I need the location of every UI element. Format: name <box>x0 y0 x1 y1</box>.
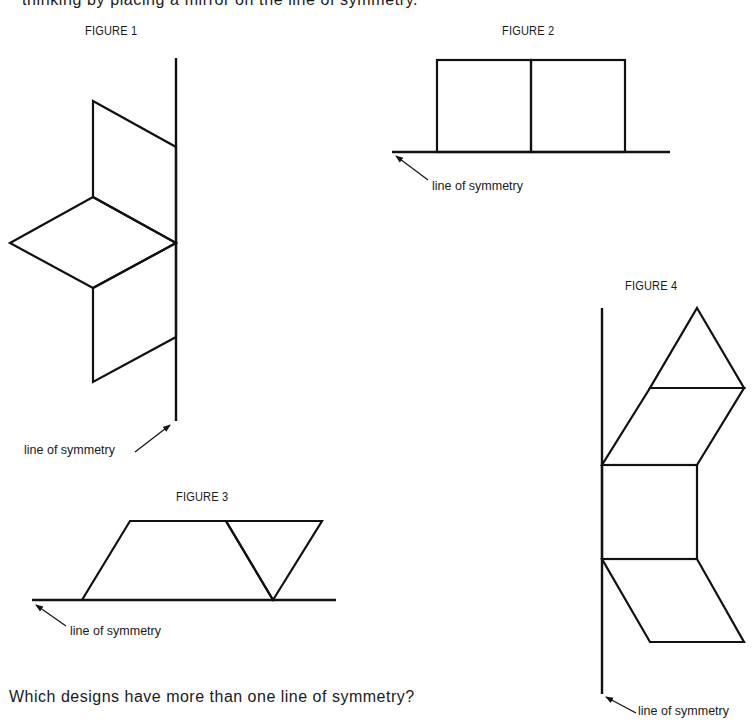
figure-1-upper-parallelogram <box>93 101 176 243</box>
figure-2-right-square <box>531 60 625 152</box>
figure-2-arrow <box>396 156 428 180</box>
figure-4-symmetry-label: line of symmetry <box>638 704 729 718</box>
figure-3-triangle <box>226 521 322 600</box>
figure-4 <box>602 308 744 713</box>
figure-1 <box>10 58 176 452</box>
figure-4-upper-parallelogram <box>602 388 744 465</box>
figure-1-lower-parallelogram <box>93 243 176 382</box>
figure-2 <box>392 60 670 180</box>
figure-4-lower-parallelogram <box>602 559 744 642</box>
figure-1-symmetry-label: line of symmetry <box>24 443 115 457</box>
figure-2-left-square <box>437 60 531 152</box>
figure-3 <box>32 521 336 626</box>
figure-2-symmetry-label: line of symmetry <box>432 179 523 193</box>
figure-3-symmetry-label: line of symmetry <box>70 624 161 638</box>
figure-4-arrow <box>606 697 636 713</box>
figure-4-triangle <box>650 308 744 388</box>
figure-3-arrow <box>36 605 66 626</box>
figure-1-rhombus <box>10 197 176 288</box>
question-text: Which designs have more than one line of… <box>9 688 415 706</box>
figure-1-arrow <box>135 425 170 452</box>
figure-4-square <box>602 465 697 559</box>
figure-3-trapezoid <box>82 521 273 600</box>
symmetry-figures-canvas <box>0 0 752 721</box>
